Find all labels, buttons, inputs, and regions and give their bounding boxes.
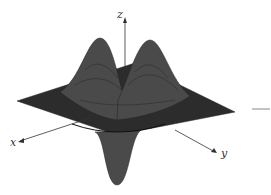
z-axis-label: z [117,8,123,21]
x-axis [20,118,90,141]
surface-plot [0,0,271,195]
x-axis-label: x [10,136,16,149]
y-axis [175,130,215,152]
y-axis-label: y [221,147,227,160]
front-trough [95,131,140,185]
z-axis-arrow-icon [123,17,127,23]
x-axis-arrow-icon [18,138,24,143]
